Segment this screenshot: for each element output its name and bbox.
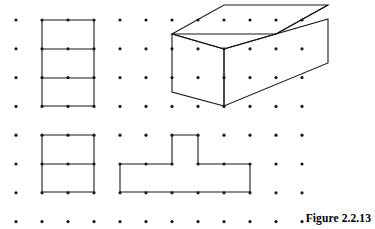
grid-dot — [118, 220, 121, 223]
grid-dot — [196, 105, 199, 108]
grid-dot — [118, 18, 121, 21]
grid-dot — [274, 105, 277, 108]
grid-dot — [274, 162, 277, 165]
grid-dot — [66, 220, 69, 223]
grid-dot — [274, 76, 277, 79]
bottom-left-divided-square — [42, 135, 94, 192]
grid-dot — [14, 105, 17, 108]
top-right-isometric-box-edge — [276, 5, 328, 34]
grid-dot — [118, 76, 121, 79]
grid-dot — [92, 220, 95, 223]
grid-dot — [274, 18, 277, 21]
grid-dot — [248, 134, 251, 137]
grid-dot — [144, 76, 147, 79]
top-right-isometric-box-edge — [224, 19, 328, 106]
grid-dot — [300, 76, 303, 79]
grid-dot — [300, 105, 303, 108]
grid-dot — [40, 220, 43, 223]
grid-dot — [300, 47, 303, 50]
grid-dot — [274, 47, 277, 50]
grid-dot — [14, 162, 17, 165]
top-left-divided-rectangle — [42, 20, 94, 106]
grid-dot — [196, 220, 199, 223]
grid-dot — [222, 18, 225, 21]
grid-dot — [196, 47, 199, 50]
grid-dot — [274, 134, 277, 137]
top-right-isometric-box-edge — [172, 34, 276, 49]
grid-dot — [170, 220, 173, 223]
grid-dot — [274, 220, 277, 223]
grid-dot — [222, 220, 225, 223]
grid-dot — [300, 162, 303, 165]
grid-dot — [300, 134, 303, 137]
grid-dot — [170, 18, 173, 21]
grid-dot — [248, 220, 251, 223]
grid-dot — [144, 134, 147, 137]
grid-dot — [14, 220, 17, 223]
grid-dot — [14, 191, 17, 194]
grid-dot — [222, 134, 225, 137]
grid-dot — [14, 134, 17, 137]
grid-dot — [118, 105, 121, 108]
grid-dot — [144, 220, 147, 223]
grid-dot — [14, 18, 17, 21]
grid-dot — [248, 47, 251, 50]
top-right-isometric-box-edge — [172, 34, 224, 106]
grid-dot — [300, 220, 303, 223]
grid-dot — [14, 47, 17, 50]
dot-grid-figure-canvas — [0, 0, 375, 229]
grid-dot — [248, 76, 251, 79]
grid-dot — [14, 76, 17, 79]
grid-dot — [144, 105, 147, 108]
grid-dot — [300, 191, 303, 194]
grid-dot — [248, 18, 251, 21]
grid-dot — [196, 76, 199, 79]
figure-caption: Figure 2.2.13 — [306, 213, 371, 225]
grid-dot — [274, 191, 277, 194]
figure-page: Figure 2.2.13 — [0, 0, 375, 229]
bottom-right-t-shape — [120, 135, 250, 192]
grid-dot — [118, 134, 121, 137]
bottom-right-t-shape-edge — [120, 135, 250, 192]
grid-dot — [118, 47, 121, 50]
grid-dot — [170, 105, 173, 108]
grid-dot — [144, 47, 147, 50]
grid-dot — [248, 105, 251, 108]
grid-dot — [144, 18, 147, 21]
shape-layer — [42, 5, 328, 192]
top-left-divided-rectangle-edge — [42, 20, 94, 106]
